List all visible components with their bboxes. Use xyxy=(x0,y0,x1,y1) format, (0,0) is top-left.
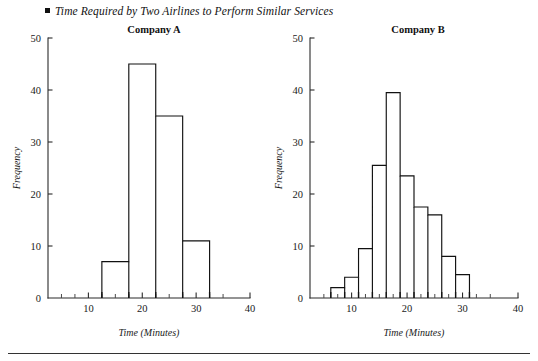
x-tick-label: 10 xyxy=(346,303,357,314)
figure-container: Time Required by Two Airlines to Perform… xyxy=(0,0,538,361)
y-tick-label: 0 xyxy=(36,293,41,304)
x-axis-title: Time (Minutes) xyxy=(384,327,445,339)
histogram-company-a: 0102030405010203040Time (Minutes)Frequen… xyxy=(0,20,268,358)
chart-panel-company-b: Company B 0102030405010203040Time (Minut… xyxy=(262,20,538,358)
x-tick-label: 20 xyxy=(402,303,413,314)
y-tick-label: 10 xyxy=(31,241,42,252)
x-tick-label: 10 xyxy=(83,303,94,314)
x-tick-label: 40 xyxy=(513,303,524,314)
y-tick-label: 40 xyxy=(31,85,42,96)
y-tick-label: 0 xyxy=(298,293,303,304)
y-tick-label: 30 xyxy=(293,137,304,148)
x-axis-title: Time (Minutes) xyxy=(119,327,180,339)
figure-title: Time Required by Two Airlines to Perform… xyxy=(45,5,333,17)
y-tick-label: 20 xyxy=(31,189,42,200)
y-tick-label: 10 xyxy=(293,241,304,252)
y-tick-label: 20 xyxy=(293,189,304,200)
figure-title-text: Time Required by Two Airlines to Perform… xyxy=(55,5,333,17)
y-axis-title: Frequency xyxy=(273,146,284,190)
y-tick-label: 50 xyxy=(31,33,42,44)
y-tick-label: 40 xyxy=(293,85,304,96)
y-axis-title: Frequency xyxy=(11,146,22,190)
x-tick-label: 30 xyxy=(191,303,202,314)
chart-panel-company-a: Company A 0102030405010203040Time (Minut… xyxy=(0,20,268,358)
y-tick-label: 30 xyxy=(31,137,42,148)
y-tick-label: 50 xyxy=(293,33,304,44)
square-bullet-icon xyxy=(45,8,50,13)
x-tick-label: 30 xyxy=(457,303,468,314)
x-tick-label: 20 xyxy=(137,303,148,314)
x-tick-label: 40 xyxy=(245,303,256,314)
footer-divider xyxy=(8,353,530,354)
histogram-company-b: 0102030405010203040Time (Minutes)Frequen… xyxy=(262,20,538,358)
